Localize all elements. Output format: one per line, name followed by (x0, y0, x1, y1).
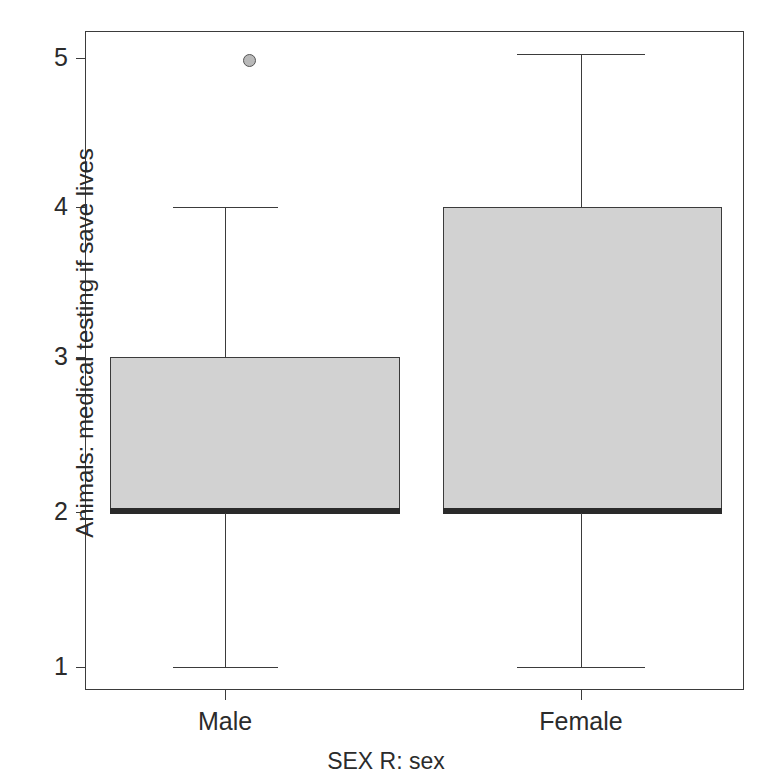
y-tick-label-4: 4 (8, 194, 68, 219)
y-tick-label-5: 5 (8, 45, 68, 70)
whisker-cap-lower-female (517, 667, 645, 668)
y-tick-label-2: 2 (8, 499, 68, 524)
box-female (443, 207, 722, 513)
y-tick-label-3: 3 (8, 344, 68, 369)
median-line-female (443, 508, 722, 514)
y-tick-label-1: 1 (8, 654, 68, 679)
boxplot-figure: 5 4 3 2 1 Male Female Animals: medical t… (0, 0, 772, 783)
median-line-male (110, 508, 400, 514)
x-tick-label-female: Female (471, 706, 691, 736)
outlier-point-male (243, 54, 256, 67)
whisker-upper-male (225, 207, 226, 358)
whisker-cap-upper-male (173, 207, 278, 208)
whisker-lower-female (581, 513, 582, 668)
y-axis-title: Animals: medical testing if save lives (72, 23, 98, 663)
whisker-upper-female (581, 54, 582, 208)
x-axis-title: SEX R: sex (0, 748, 772, 774)
x-tick-label-male: Male (115, 706, 335, 736)
whisker-cap-lower-male (173, 667, 278, 668)
x-tick-female (581, 690, 582, 700)
x-tick-male (225, 690, 226, 700)
whisker-cap-upper-female (517, 54, 645, 55)
box-male (110, 357, 400, 513)
whisker-lower-male (225, 513, 226, 668)
y-tick-1 (76, 667, 85, 668)
